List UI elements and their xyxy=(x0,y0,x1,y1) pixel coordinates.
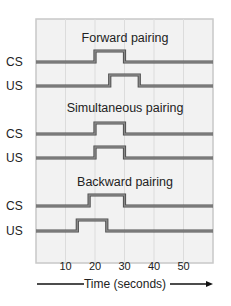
signal-label-cs: CS xyxy=(6,199,23,213)
x-tick-label: 30 xyxy=(118,260,130,272)
x-tick-label: 10 xyxy=(59,260,71,272)
panel-title: Backward pairing xyxy=(77,175,173,189)
x-axis-label-group: Time (seconds) xyxy=(37,277,213,291)
signal-label-us: US xyxy=(6,224,23,238)
panel-title: Forward pairing xyxy=(82,31,169,45)
x-tick-label: 40 xyxy=(148,260,160,272)
panel-title: Simultaneous pairing xyxy=(67,101,184,115)
signal-label-us: US xyxy=(6,151,23,165)
x-tick-label: 20 xyxy=(89,260,101,272)
signal-label-cs: CS xyxy=(6,55,23,69)
x-axis-label: Time (seconds) xyxy=(84,277,166,291)
x-tick-label: 50 xyxy=(177,260,189,272)
signal-label-cs: CS xyxy=(6,127,23,141)
signal-label-us: US xyxy=(6,79,23,93)
classical-conditioning-timing-diagram: Forward pairingCSUSSimultaneous pairingC… xyxy=(0,0,231,306)
arrow-head-icon xyxy=(206,281,213,287)
